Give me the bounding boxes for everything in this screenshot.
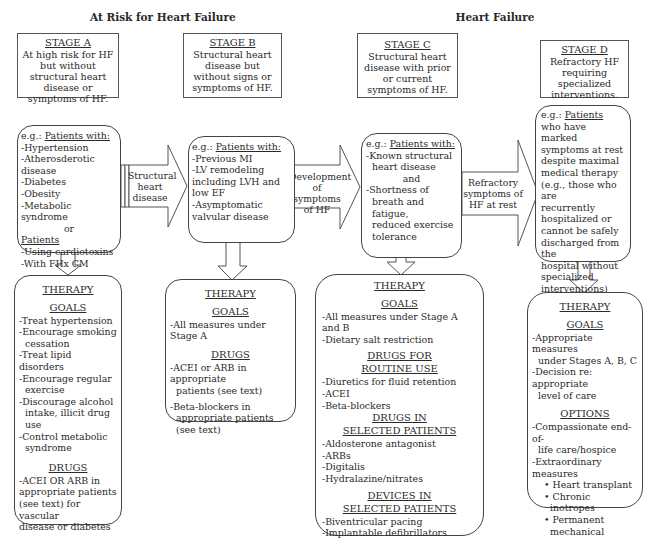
transition-label-c-d: Refractory symptoms of HF at rest — [463, 177, 523, 210]
stage-b-title: STAGE B — [186, 37, 279, 48]
bullet-item: • Permanent — [532, 514, 638, 526]
therapy-d-box: THERAPY GOALS -Appropriate measures unde… — [527, 292, 643, 508]
stage-b-box: STAGE B Structural heart disease but wit… — [183, 33, 282, 98]
stage-d-box: STAGE D Refractory HF requiring speciali… — [540, 40, 629, 98]
patients-d-box: e.g.: Patients who have marked symptoms … — [535, 105, 631, 262]
therapy-a-title: THERAPY — [19, 284, 117, 296]
bullet-item: • Heart transplant — [532, 479, 638, 491]
stage-c-description: Structural heart disease with prior or c… — [364, 51, 451, 95]
patients-a-box: e.g.: Patients with: -Hypertension -Athe… — [17, 125, 121, 253]
stage-c-title: STAGE C — [360, 39, 455, 50]
stage-a-title: STAGE A — [20, 37, 116, 48]
bullet-item: • Chronic inotropes — [532, 491, 638, 514]
transition-label-b-c: Development of symptoms of HF — [289, 171, 345, 215]
stage-a-box: STAGE A At high risk for HF but without … — [17, 33, 119, 98]
down-arrow-c — [387, 258, 415, 275]
header-heart-failure: Heart Failure — [455, 11, 535, 23]
therapy-a-box: THERAPY GOALS -Treat hypertension -Encou… — [14, 275, 122, 525]
stage-b-description: Structural heart disease but without sig… — [192, 49, 272, 93]
stage-d-title: STAGE D — [543, 44, 626, 55]
stage-a-description: At high risk for HF but without structur… — [23, 49, 114, 104]
therapy-d-title: THERAPY — [532, 301, 638, 313]
therapy-c-title: THERAPY — [322, 280, 477, 292]
patients-b-box: e.g.: Patients with: -Previous MI -LV re… — [188, 136, 295, 243]
stage-c-box: STAGE C Structural heart disease with pr… — [357, 33, 458, 98]
transition-label-a-b: Structural heart disease — [128, 170, 172, 203]
therapy-c-box: THERAPY GOALS -All measures under Stage … — [315, 274, 484, 536]
patients-a-heading: Patients with: — [45, 130, 110, 141]
header-at-risk: At Risk for Heart Failure — [90, 11, 210, 23]
therapy-b-title: THERAPY — [170, 288, 291, 300]
patients-c-box: e.g.: Patients with: -Known structural h… — [361, 133, 462, 258]
stage-d-description: Refractory HF requiring specialized inte… — [550, 56, 619, 100]
down-arrow-b — [218, 243, 247, 280]
therapy-b-box: THERAPY GOALS -All measures under Stage … — [165, 279, 296, 422]
